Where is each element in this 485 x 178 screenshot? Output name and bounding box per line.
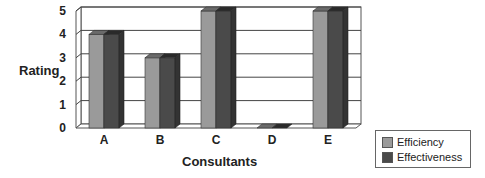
svg-text:D: D — [268, 133, 277, 147]
legend-swatch — [382, 137, 393, 148]
svg-text:2: 2 — [59, 74, 66, 88]
svg-text:5: 5 — [59, 4, 66, 18]
svg-text:C: C — [212, 133, 221, 147]
legend-swatch — [382, 152, 393, 163]
svg-text:0: 0 — [59, 121, 66, 135]
svg-text:3: 3 — [59, 51, 66, 65]
svg-text:4: 4 — [59, 27, 66, 41]
svg-text:E: E — [324, 133, 332, 147]
svg-text:B: B — [156, 133, 165, 147]
legend-item-efficiency: Efficiency — [382, 136, 444, 148]
legend-item-effectiveness: Effectiveness — [382, 151, 462, 163]
x-axis-label: Consultants — [182, 154, 257, 169]
svg-text:1: 1 — [59, 98, 66, 112]
bar-chart: 012345ABCDE Rating Consultants Efficienc… — [0, 0, 485, 178]
legend: Efficiency Effectiveness — [375, 130, 471, 168]
svg-text:A: A — [100, 133, 109, 147]
y-axis-label: Rating — [19, 63, 59, 78]
